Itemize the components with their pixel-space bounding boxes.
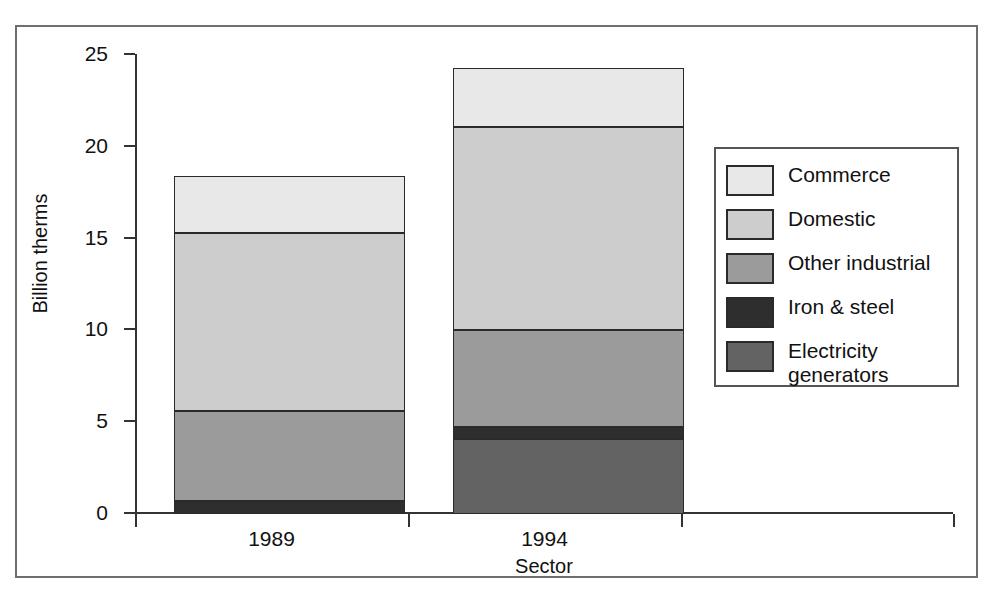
x-tick-3 [953, 514, 955, 527]
legend-swatch-icon [726, 253, 774, 284]
x-tick-label-1994: 1994 [408, 527, 681, 550]
legend-item-iron-and-steel[interactable]: Iron & steel [726, 295, 894, 328]
bar-stack-1989 [174, 55, 405, 514]
bar-segment-1989-domestic [174, 233, 405, 411]
y-axis-title: Billion therms [29, 154, 52, 354]
y-tick-label-10: 10 [62, 318, 108, 339]
bar-segment-1994-iron-and-steel [453, 427, 684, 439]
legend-label: Commerce [788, 163, 891, 187]
legend-label: Iron & steel [788, 295, 894, 319]
y-tick-20 [124, 145, 135, 147]
y-tick-5 [124, 420, 135, 422]
legend-swatch-icon [726, 209, 774, 240]
x-tick-label-1989: 1989 [135, 527, 408, 550]
legend-swatch-icon [726, 341, 774, 372]
legend-label: Electricity generators [788, 339, 888, 386]
legend-item-other-industrial[interactable]: Other industrial [726, 251, 930, 284]
legend-item-commerce[interactable]: Commerce [726, 163, 891, 196]
y-tick-label-15: 15 [62, 227, 108, 248]
legend-item-domestic[interactable]: Domestic [726, 207, 876, 240]
y-axis-line [135, 54, 137, 514]
y-tick-25 [124, 53, 135, 55]
x-tick-2 [681, 514, 683, 527]
bar-segment-1994-electricity-generators [453, 439, 684, 514]
chart-legend: CommerceDomesticOther industrialIron & s… [714, 147, 959, 387]
plot-area: 0510152025 1989 1994 Billion therms Sect… [17, 27, 980, 580]
bar-segment-1989-commerce [174, 176, 405, 233]
x-tick-0 [135, 514, 137, 527]
legend-label: Domestic [788, 207, 876, 231]
y-tick-label-0: 0 [62, 502, 108, 523]
legend-swatch-icon [726, 297, 774, 328]
bar-stack-1994 [453, 55, 684, 514]
y-tick-10 [124, 328, 135, 330]
y-tick-label-5: 5 [62, 410, 108, 431]
bar-segment-1994-other-industrial [453, 330, 684, 426]
bar-segment-1994-commerce [453, 68, 684, 127]
legend-swatch-icon [726, 165, 774, 196]
legend-item-electricity-generators[interactable]: Electricity generators [726, 339, 888, 386]
bar-segment-1989-iron-and-steel [174, 501, 405, 514]
x-axis-title: Sector [135, 555, 953, 578]
figure-frame: 0510152025 1989 1994 Billion therms Sect… [15, 25, 978, 578]
y-tick-label-20: 20 [62, 135, 108, 156]
bar-segment-1989-other-industrial [174, 411, 405, 501]
y-tick-0 [124, 512, 135, 514]
y-tick-label-25: 25 [62, 43, 108, 64]
legend-label: Other industrial [788, 251, 930, 275]
y-tick-15 [124, 237, 135, 239]
bar-segment-1994-domestic [453, 127, 684, 331]
x-tick-1 [408, 514, 410, 527]
